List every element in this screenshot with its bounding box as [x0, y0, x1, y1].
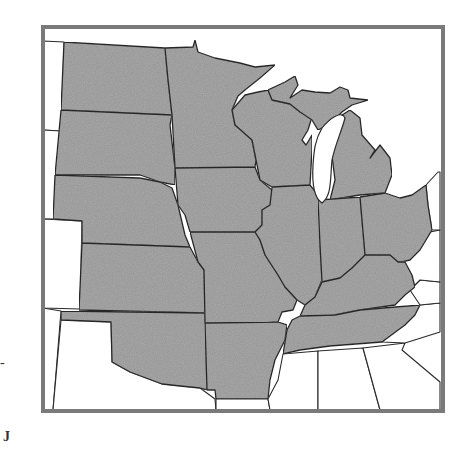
state-louisiana	[216, 399, 270, 410]
state-south-dakota	[55, 110, 175, 185]
margin-mark: -	[0, 356, 5, 370]
midwest-map	[0, 0, 469, 449]
state-colorado	[43, 219, 82, 309]
state-iowa	[175, 167, 272, 232]
state-kansas	[79, 243, 205, 313]
corner-mark: J	[3, 430, 10, 444]
state-north-dakota	[61, 42, 172, 115]
